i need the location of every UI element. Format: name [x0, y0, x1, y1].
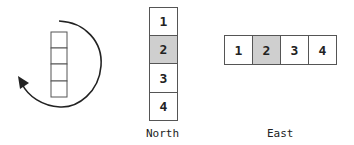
east-row: 1 2 3 4	[224, 35, 337, 65]
north-cell-2-highlighted: 2	[149, 35, 178, 64]
north-cell-4: 4	[149, 92, 178, 121]
north-cell-1: 1	[149, 7, 178, 36]
north-label: North	[146, 127, 179, 140]
rotation-figure	[0, 0, 120, 145]
north-cell-3: 3	[149, 63, 178, 93]
east-cell-3: 3	[280, 35, 309, 65]
stack-icon	[51, 32, 67, 97]
east-cell-2-highlighted: 2	[252, 35, 281, 65]
north-column: 1 2 3 4	[149, 7, 178, 122]
east-label: East	[267, 127, 294, 140]
east-cell-1: 1	[224, 35, 253, 65]
east-cell-4: 4	[308, 35, 337, 65]
